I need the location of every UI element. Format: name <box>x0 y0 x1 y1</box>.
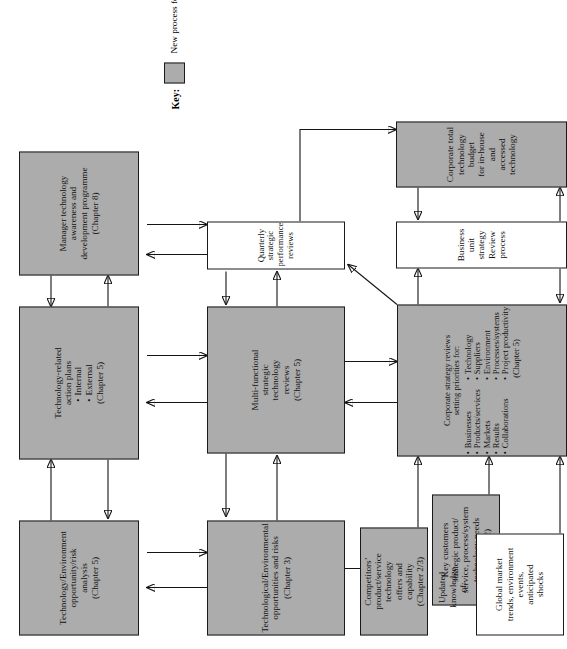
node-title-line2: awareness and <box>68 154 78 272</box>
node-title-line3: technology <box>383 530 393 632</box>
node-title-line1: Technological/Environmental <box>260 523 270 632</box>
node-title-line3: analysis <box>79 523 89 632</box>
node-title-line1: Technology/Environment <box>58 523 68 632</box>
node-title-line4: accessed technology <box>497 124 518 184</box>
node-title-line2: opportunities and risks <box>270 523 280 632</box>
node-title-line1: Multi-functional <box>250 309 260 450</box>
node-chapter-ref: (Chapter 5) <box>90 523 100 632</box>
bullet-item: Collaborations <box>501 389 510 454</box>
node-bullet-list: Internal External <box>73 364 94 401</box>
node-title-line3: events, <box>515 536 525 632</box>
legend: Key: New process for many companies <box>140 4 220 109</box>
node-title-line2: opportunity/risk <box>68 523 78 632</box>
legend-text: New process for many companies <box>169 0 179 53</box>
node-title-line5: shocks <box>535 536 545 632</box>
node-title-line2: product/service <box>373 530 383 632</box>
node-title-line2: performance reviews <box>276 224 295 266</box>
node-business-unit-strategy-review-process[interactable]: Business unit strategy Review process <box>396 221 567 268</box>
node-title-line5: capability <box>404 530 414 632</box>
node-title-line3: for in-house and <box>476 124 497 184</box>
node-manager-technology-awareness-development-programme[interactable]: Manager technology awareness and develop… <box>19 151 139 275</box>
node-title-line2: action plans <box>63 309 73 456</box>
node-technology-related-action-plans[interactable]: Technology-related action plans Internal… <box>19 306 139 459</box>
node-title-line4: reviews <box>281 309 291 450</box>
label-line3: of: <box>458 567 468 607</box>
node-technology-environment-opportunity-risk-analysis[interactable]: Technology/Environment opportunity/risk … <box>19 520 139 635</box>
node-title-line1: Global market <box>494 536 504 632</box>
node-title-line1: Competitors’ <box>363 530 373 632</box>
label-line2: knowledge <box>448 567 458 607</box>
bullet-item: Internal <box>73 364 83 401</box>
node-chapter-ref: (Chapter 5) <box>292 309 302 450</box>
node-multi-functional-strategic-technology-reviews[interactable]: Multi-functional strategic technology re… <box>207 306 345 453</box>
bullet-item: Project productivity <box>501 306 510 379</box>
node-chapter-ref: (Chapter 3) <box>282 523 292 632</box>
node-title-line1: Manager technology <box>58 154 68 272</box>
bullet-item: External <box>84 364 94 401</box>
node-corporate-total-technology-budget[interactable]: Corporate total technology budget for in… <box>396 121 567 187</box>
label-line1: Updated <box>437 567 447 607</box>
node-corporate-strategy-reviews[interactable]: Corporate strategy reviews setting prior… <box>397 304 567 456</box>
label-updated-knowledge-of: Updated knowledge of: <box>435 543 471 631</box>
node-chapter-ref: (Chapter 2/3) <box>415 530 425 632</box>
node-title-line3: development programme <box>79 154 89 272</box>
node-title-line3: technology <box>270 309 280 450</box>
node-competitors-product-service-technology-offers[interactable]: Competitors’ product/service technology … <box>360 527 428 635</box>
node-title-line2: trends, environment <box>505 536 515 632</box>
node-title-line1: Business unit strategy <box>456 224 487 265</box>
node-quarterly-strategic-performance-reviews[interactable]: Quarterly strategic performance reviews <box>207 221 345 269</box>
node-title-line4: anticipated <box>525 536 535 632</box>
node-title-line2: technology budget <box>456 124 477 184</box>
node-title-line2: setting priorities for: <box>452 307 461 453</box>
node-title-line1: Corporate total <box>445 124 455 184</box>
node-global-market-trends-environment-events[interactable]: Global market trends, environment events… <box>476 533 564 635</box>
node-bullet-list-right: Technology Suppliers Environment Process… <box>464 306 511 379</box>
node-chapter-ref: (Chapter 5) <box>95 309 105 456</box>
legend-swatch-new-process-icon <box>164 62 185 83</box>
node-title-line1: Technology-related <box>53 309 63 456</box>
node-bullet-list-left: Businesses Products/services Markets Res… <box>464 389 511 454</box>
node-technological-environmental-opportunities-risks[interactable]: Technological/Environmental opportunitie… <box>207 520 345 635</box>
legend-label: Key: <box>170 88 181 109</box>
node-bullet-columns: Businesses Products/services Markets Res… <box>464 307 511 453</box>
node-chapter-ref: (Chapter 8) <box>90 154 100 272</box>
node-chapter-ref: (Chapter 5) <box>512 307 521 409</box>
node-title-line4: offers and <box>394 530 404 632</box>
node-title-line1: Quarterly strategic <box>257 224 276 266</box>
node-title-line2: strategic <box>260 309 270 450</box>
node-title-line2: Review process <box>487 224 508 265</box>
